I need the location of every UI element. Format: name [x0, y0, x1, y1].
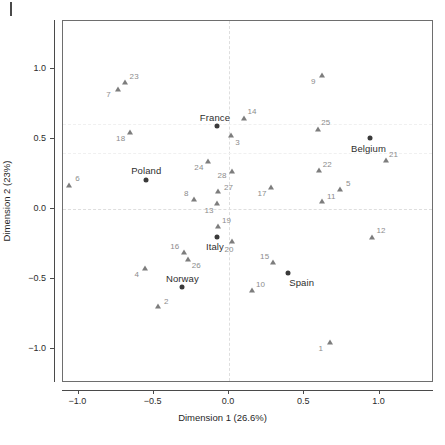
data-label-17: 17 — [258, 188, 267, 197]
data-label-3: 3 — [235, 137, 240, 146]
y-tick-label-3: −0.5 — [28, 273, 46, 283]
data-label-7: 7 — [106, 89, 111, 98]
data-label-italy: Italy — [206, 241, 224, 252]
data-point-france — [214, 124, 219, 129]
data-point-3 — [228, 132, 234, 137]
x-tick-label-0: −1.0 — [69, 396, 87, 406]
data-point-12 — [369, 235, 375, 240]
x-tick-4 — [379, 390, 380, 394]
plot-panel: 1234567891011121314151617181920212223242… — [62, 20, 433, 382]
y-tick-label-1: 0.5 — [33, 133, 46, 143]
data-label-13: 13 — [204, 206, 213, 215]
data-point-24 — [205, 159, 211, 164]
data-label-19: 19 — [222, 215, 231, 224]
data-label-france: France — [200, 112, 230, 123]
data-point-spain — [285, 271, 290, 276]
data-point-2 — [155, 303, 161, 308]
data-point-poland — [144, 177, 149, 182]
data-label-norway: Norway — [166, 273, 199, 284]
data-label-5: 5 — [346, 179, 351, 188]
data-label-20: 20 — [224, 245, 233, 254]
data-label-2: 2 — [164, 296, 169, 305]
y-axis-line — [54, 20, 55, 382]
y-tick-0 — [50, 68, 54, 69]
data-point-28 — [229, 169, 235, 174]
data-point-4 — [142, 265, 148, 270]
data-point-13 — [214, 201, 220, 206]
faint-guide-1 — [63, 153, 432, 154]
data-label-9: 9 — [311, 76, 316, 85]
data-label-24: 24 — [194, 163, 203, 172]
vertical-zero-guide — [229, 21, 230, 381]
y-axis-title: Dimension 2 (23%) — [1, 161, 12, 242]
data-point-19 — [215, 223, 221, 228]
data-point-6 — [66, 183, 72, 188]
horizontal-zero-guide — [63, 209, 432, 210]
x-tick-2 — [228, 390, 229, 394]
data-point-italy — [214, 235, 219, 240]
data-label-26: 26 — [192, 261, 201, 270]
data-point-16 — [181, 250, 187, 255]
data-label-22: 22 — [323, 159, 332, 168]
data-label-poland: Poland — [131, 164, 161, 175]
data-point-23 — [122, 79, 128, 84]
data-point-21 — [383, 158, 389, 163]
data-label-belgium: Belgium — [351, 142, 386, 153]
data-point-18 — [127, 130, 133, 135]
data-point-5 — [337, 187, 343, 192]
data-label-12: 12 — [376, 226, 385, 235]
data-label-23: 23 — [130, 71, 139, 80]
corner-tick-artifact — [10, 2, 12, 16]
y-tick-label-2: 0.0 — [33, 203, 46, 213]
data-point-20 — [229, 239, 235, 244]
data-point-26 — [185, 257, 191, 262]
y-tick-3 — [50, 278, 54, 279]
data-label-1: 1 — [319, 344, 324, 353]
x-tick-label-3: 0.5 — [297, 396, 310, 406]
data-label-10: 10 — [256, 280, 265, 289]
data-point-1 — [327, 340, 333, 345]
x-axis-line — [62, 390, 433, 391]
data-label-16: 16 — [170, 242, 179, 251]
data-point-10 — [249, 288, 255, 293]
data-point-7 — [115, 86, 121, 91]
data-point-17 — [268, 184, 274, 189]
data-point-9 — [319, 72, 325, 77]
y-tick-label-4: −1.0 — [28, 343, 46, 353]
data-point-norway — [180, 285, 185, 290]
data-label-14: 14 — [247, 107, 256, 116]
data-label-27: 27 — [224, 182, 233, 191]
x-tick-3 — [303, 390, 304, 394]
data-point-8 — [191, 197, 197, 202]
y-tick-1 — [50, 138, 54, 139]
x-tick-1 — [153, 390, 154, 394]
data-label-11: 11 — [327, 191, 336, 200]
y-tick-2 — [50, 208, 54, 209]
data-point-11 — [319, 198, 325, 203]
data-label-25: 25 — [321, 118, 330, 127]
data-label-spain: Spain — [289, 277, 314, 288]
scatter-plot-figure: 1234567891011121314151617181920212223242… — [0, 0, 445, 445]
x-tick-label-1: −0.5 — [144, 396, 162, 406]
data-point-belgium — [368, 135, 373, 140]
data-label-8: 8 — [184, 189, 189, 198]
data-point-25 — [315, 127, 321, 132]
x-tick-label-4: 1.0 — [372, 396, 385, 406]
plot-area: 1234567891011121314151617181920212223242… — [63, 21, 432, 381]
data-point-22 — [316, 167, 322, 172]
y-tick-4 — [50, 348, 54, 349]
data-label-18: 18 — [116, 134, 125, 143]
data-label-15: 15 — [260, 252, 269, 261]
data-label-6: 6 — [75, 174, 80, 183]
x-tick-label-2: 0.0 — [222, 396, 235, 406]
y-tick-label-0: 1.0 — [33, 63, 46, 73]
x-axis-title: Dimension 1 (26.6%) — [0, 412, 445, 423]
x-tick-0 — [78, 390, 79, 394]
data-point-14 — [241, 116, 247, 121]
data-point-15 — [270, 260, 276, 265]
faint-guide-0 — [63, 124, 432, 125]
data-point-27 — [215, 188, 221, 193]
data-label-28: 28 — [217, 171, 226, 180]
data-label-21: 21 — [389, 150, 398, 159]
data-label-4: 4 — [134, 269, 139, 278]
